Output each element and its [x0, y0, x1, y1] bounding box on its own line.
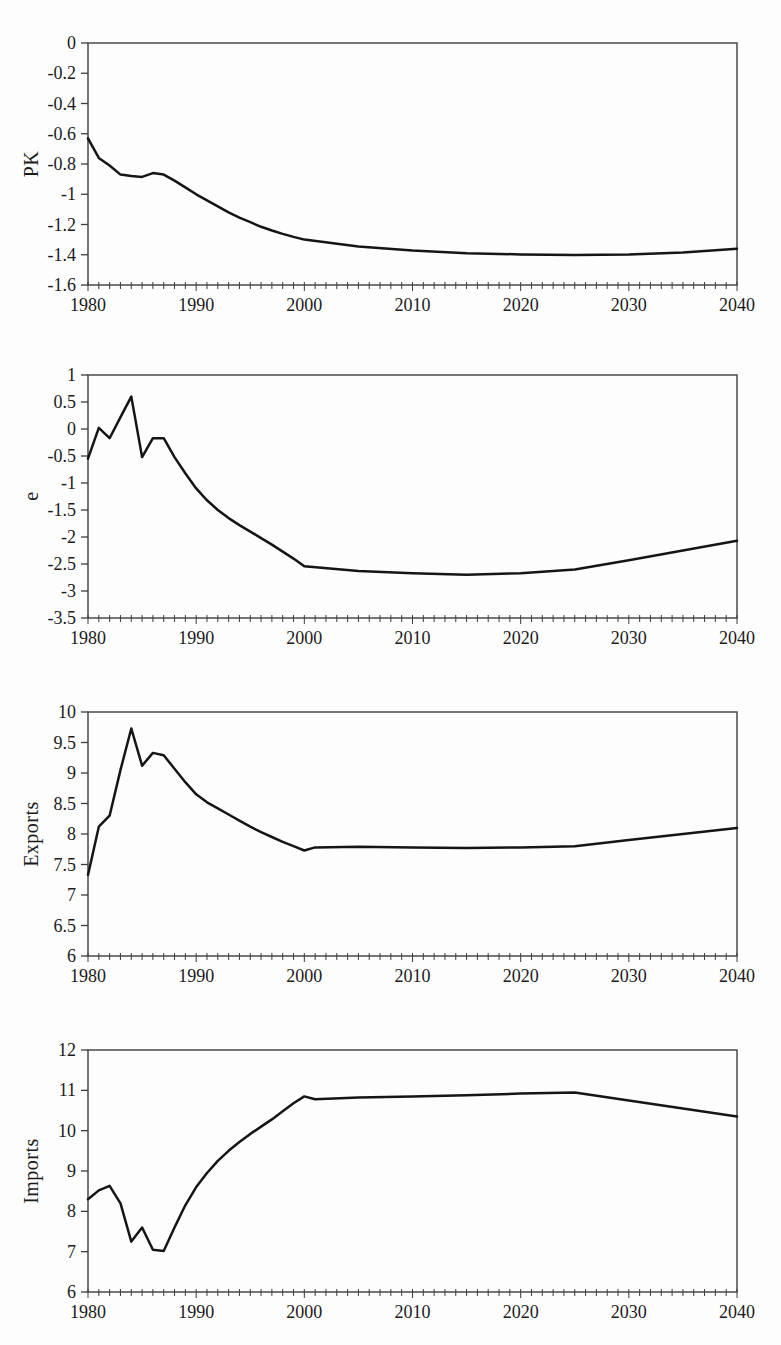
svg-text:2010: 2010: [395, 966, 431, 986]
svg-text:2020: 2020: [503, 295, 539, 315]
chart-pk: PK 0-0.2-0.4-0.6-0.8-1-1.2-1.4-1.6198019…: [0, 0, 781, 336]
svg-text:-2: -2: [61, 527, 76, 547]
svg-text:8: 8: [67, 1201, 76, 1221]
chart-exports: Exports 109.598.587.576.5619801990200020…: [0, 672, 781, 1012]
svg-text:-1.5: -1.5: [48, 500, 77, 520]
svg-text:1990: 1990: [178, 966, 214, 986]
svg-text:-0.5: -0.5: [48, 446, 77, 466]
svg-text:2000: 2000: [286, 966, 322, 986]
svg-text:2030: 2030: [611, 628, 647, 648]
svg-text:2010: 2010: [395, 295, 431, 315]
svg-text:1980: 1980: [70, 1302, 106, 1322]
svg-text:-0.8: -0.8: [48, 154, 77, 174]
svg-text:2040: 2040: [719, 966, 755, 986]
svg-text:9.5: 9.5: [54, 733, 77, 753]
plot-e: 10.50-0.5-1-1.5-2-2.5-3-3.51980199020002…: [0, 336, 781, 672]
svg-text:6: 6: [67, 1282, 76, 1302]
svg-text:-0.4: -0.4: [48, 94, 77, 114]
svg-text:9: 9: [67, 1161, 76, 1181]
svg-text:11: 11: [59, 1080, 76, 1100]
svg-text:2040: 2040: [719, 628, 755, 648]
svg-text:2020: 2020: [503, 1302, 539, 1322]
svg-text:6: 6: [67, 946, 76, 966]
y-axis-title-e: e: [20, 491, 43, 500]
svg-text:7: 7: [67, 885, 76, 905]
plot-pk: 0-0.2-0.4-0.6-0.8-1-1.2-1.4-1.6198019902…: [0, 0, 781, 336]
svg-text:8.5: 8.5: [54, 794, 77, 814]
svg-text:10: 10: [58, 702, 76, 722]
svg-text:2030: 2030: [611, 966, 647, 986]
plot-exports: 109.598.587.576.561980199020002010202020…: [0, 672, 781, 1012]
svg-text:2040: 2040: [719, 295, 755, 315]
svg-text:2000: 2000: [286, 1302, 322, 1322]
plot-imports: 12111098761980199020002010202020302040: [0, 1012, 781, 1345]
svg-text:2030: 2030: [611, 1302, 647, 1322]
svg-text:10: 10: [58, 1121, 76, 1141]
svg-text:-0.2: -0.2: [48, 63, 77, 83]
svg-text:1990: 1990: [178, 628, 214, 648]
svg-text:-3.5: -3.5: [48, 608, 77, 628]
svg-text:2000: 2000: [286, 628, 322, 648]
svg-text:1980: 1980: [70, 295, 106, 315]
svg-text:9: 9: [67, 763, 76, 783]
svg-text:8: 8: [67, 824, 76, 844]
svg-text:-1.2: -1.2: [48, 215, 77, 235]
svg-text:2020: 2020: [503, 966, 539, 986]
y-axis-title-exports: Exports: [20, 801, 43, 867]
svg-text:2040: 2040: [719, 1302, 755, 1322]
y-axis-title-imports: Imports: [20, 1138, 43, 1204]
svg-text:-1: -1: [61, 473, 76, 493]
svg-text:-1.4: -1.4: [48, 245, 77, 265]
svg-text:-1: -1: [61, 184, 76, 204]
svg-text:-3: -3: [61, 581, 76, 601]
svg-text:2030: 2030: [611, 295, 647, 315]
svg-text:-0.6: -0.6: [48, 124, 77, 144]
svg-text:6.5: 6.5: [54, 916, 77, 936]
svg-text:2010: 2010: [395, 628, 431, 648]
figure-page: PK 0-0.2-0.4-0.6-0.8-1-1.2-1.4-1.6198019…: [0, 0, 781, 1345]
svg-text:7.5: 7.5: [54, 855, 77, 875]
svg-text:2000: 2000: [286, 295, 322, 315]
svg-text:-1.6: -1.6: [48, 275, 77, 295]
svg-text:1990: 1990: [178, 1302, 214, 1322]
svg-text:0: 0: [67, 33, 76, 53]
svg-text:7: 7: [67, 1242, 76, 1262]
svg-text:1990: 1990: [178, 295, 214, 315]
svg-text:0.5: 0.5: [54, 392, 77, 412]
svg-text:2010: 2010: [395, 1302, 431, 1322]
svg-text:0: 0: [67, 419, 76, 439]
chart-e: e 10.50-0.5-1-1.5-2-2.5-3-3.519801990200…: [0, 336, 781, 672]
svg-text:12: 12: [58, 1040, 76, 1060]
y-axis-title-pk: PK: [20, 151, 43, 178]
svg-text:1: 1: [67, 365, 76, 385]
chart-imports: Imports 12111098761980199020002010202020…: [0, 1012, 781, 1345]
svg-text:-2.5: -2.5: [48, 554, 77, 574]
svg-text:1980: 1980: [70, 628, 106, 648]
svg-text:2020: 2020: [503, 628, 539, 648]
svg-text:1980: 1980: [70, 966, 106, 986]
